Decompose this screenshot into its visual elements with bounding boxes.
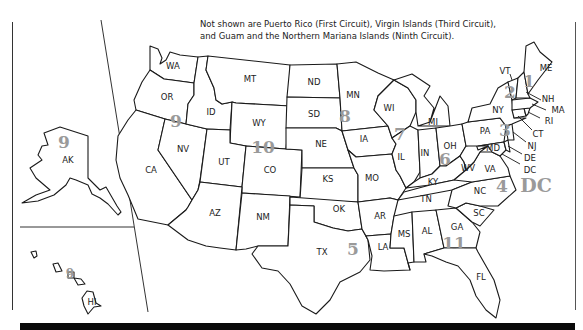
label-id: ID	[206, 107, 216, 117]
label-il: IL	[397, 152, 405, 162]
label-mo: MO	[365, 173, 379, 183]
circuit-dc: DC	[520, 174, 552, 196]
label-tx: TX	[315, 247, 327, 257]
label-ut: UT	[218, 157, 230, 167]
circuit-10: 10	[251, 137, 275, 157]
label-mn: MN	[346, 90, 360, 100]
circuit-9-alaska: 9	[58, 132, 70, 152]
label-mt: MT	[244, 74, 257, 84]
label-hi: HI	[88, 297, 97, 307]
label-ma: MA	[551, 105, 564, 115]
circuit-7: 7	[394, 124, 406, 144]
label-nv: NV	[177, 144, 189, 154]
label-nd: ND	[308, 77, 321, 87]
label-ms: MS	[398, 229, 411, 239]
label-wa: WA	[166, 61, 180, 71]
label-mi: MI	[428, 117, 438, 127]
state-fl[interactable]	[424, 248, 500, 318]
label-ok: OK	[333, 204, 346, 214]
label-de: DE	[524, 153, 536, 163]
label-pa: PA	[480, 126, 491, 136]
label-me: ME	[540, 63, 553, 73]
label-ca: CA	[145, 165, 157, 175]
label-md: MD	[486, 143, 500, 153]
label-ia: IA	[360, 134, 369, 144]
label-nh: NH	[542, 94, 555, 104]
label-va: VA	[484, 164, 495, 174]
label-wv: WV	[461, 163, 475, 173]
label-ri: RI	[545, 116, 553, 126]
label-ky: KY	[428, 177, 439, 187]
label-ne: NE	[315, 139, 327, 149]
circuit-map: WA OR CA NV ID MT WY UT CO AZ NM ND SD N…	[0, 0, 583, 330]
label-ny: NY	[492, 105, 504, 115]
label-or: OR	[161, 92, 174, 102]
state-nm[interactable]	[236, 193, 290, 250]
label-ga: GA	[451, 222, 464, 232]
label-nc: NC	[474, 186, 486, 196]
label-nm: NM	[256, 212, 270, 222]
label-dc: DC	[524, 165, 537, 175]
label-sd: SD	[308, 109, 320, 119]
circuit-9-west: 9	[170, 111, 182, 131]
leader-nj	[513, 132, 526, 142]
label-ks: KS	[323, 174, 334, 184]
circuit-2: 2	[504, 82, 516, 102]
state-ak[interactable]	[22, 127, 121, 215]
circuit-4: 4	[496, 176, 508, 196]
label-al: AL	[422, 226, 433, 236]
label-ak: AK	[62, 155, 74, 165]
circuit-3: 3	[499, 120, 511, 140]
circuit-1: 1	[523, 71, 535, 91]
circuit-8: 8	[339, 106, 351, 126]
leader-ma	[532, 104, 546, 110]
label-wy: WY	[252, 118, 266, 128]
label-ct: CT	[532, 129, 544, 139]
label-az: AZ	[209, 208, 221, 218]
circuit-5: 5	[347, 239, 359, 259]
leader-ri	[528, 112, 540, 118]
label-in: IN	[421, 148, 430, 158]
label-wi: WI	[384, 103, 395, 113]
bottom-bar	[20, 323, 575, 330]
label-fl: FL	[476, 272, 486, 282]
label-tn: TN	[419, 194, 432, 204]
label-co: CO	[264, 165, 277, 175]
label-nj: NJ	[528, 141, 537, 151]
label-vt: VT	[499, 66, 511, 76]
label-ar: AR	[374, 211, 386, 221]
label-la: LA	[378, 242, 389, 252]
label-sc: SC	[473, 208, 484, 218]
circuit-6: 6	[439, 149, 451, 169]
circuit-9-hawaii: 9	[66, 267, 74, 281]
circuit-11: 11	[442, 233, 466, 253]
